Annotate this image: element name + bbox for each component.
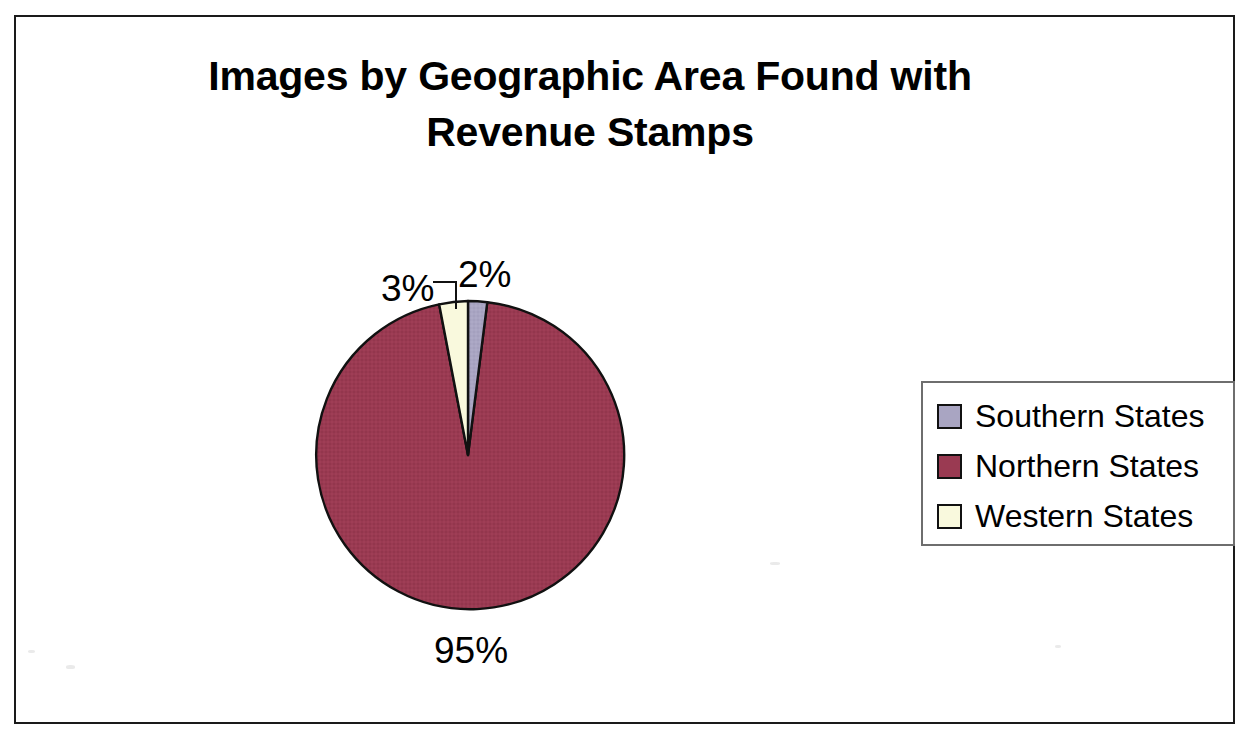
scan-artifact <box>28 650 35 653</box>
scan-artifact <box>770 562 780 565</box>
chart-title-line-1: Images by Geographic Area Found with <box>90 48 1090 104</box>
legend-label-southern-states: Southern States <box>975 400 1204 432</box>
chart-legend: Southern States Northern States Western … <box>921 381 1235 546</box>
scan-artifact <box>1055 645 1061 648</box>
legend-item-southern-states[interactable]: Southern States <box>923 391 1233 441</box>
legend-item-western-states[interactable]: Western States <box>923 491 1233 541</box>
chart-title-line-2: Revenue Stamps <box>90 104 1090 160</box>
pie-svg <box>313 299 623 611</box>
legend-swatch-western-states <box>937 504 962 529</box>
data-label-western-states: 3% <box>381 270 434 307</box>
chart-title: Images by Geographic Area Found with Rev… <box>90 48 1090 160</box>
legend-swatch-southern-states <box>937 404 962 429</box>
legend-label-northern-states: Northern States <box>975 450 1199 482</box>
pie-plot-area <box>313 299 623 611</box>
data-label-northern-states: 95% <box>434 632 508 669</box>
legend-swatch-northern-states <box>937 454 962 479</box>
legend-label-western-states: Western States <box>975 500 1193 532</box>
scan-artifact <box>66 665 75 669</box>
legend-item-northern-states[interactable]: Northern States <box>923 441 1233 491</box>
data-label-southern-states: 2% <box>458 256 511 293</box>
pie-chart-figure: Images by Geographic Area Found with Rev… <box>0 0 1253 756</box>
